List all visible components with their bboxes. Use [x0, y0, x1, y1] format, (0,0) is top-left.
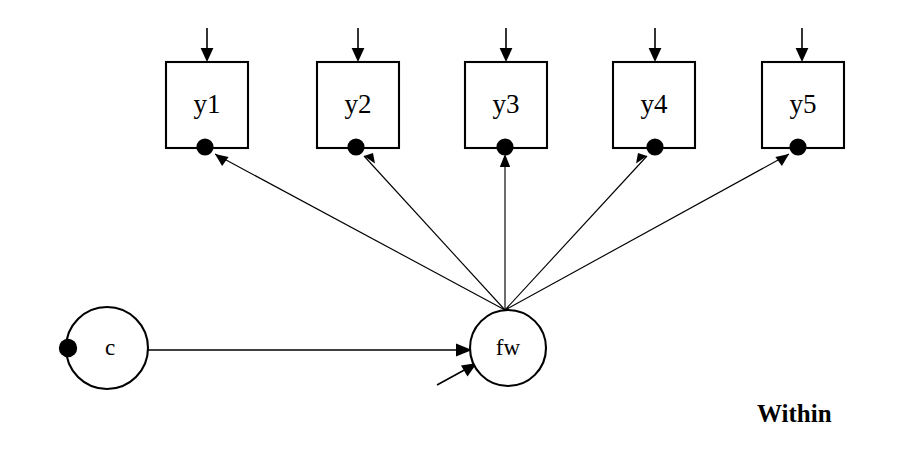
indicator-label-y3: y3 [493, 89, 520, 119]
sem-path-diagram: y1 y2 y3 y4 y5 [0, 0, 901, 463]
indicator-residual-arrows-group [201, 28, 809, 62]
group-label-within: Within [757, 400, 832, 427]
residual-dot-y3 [496, 138, 513, 155]
loading-path-fw-to-y1[interactable] [215, 154, 505, 310]
diagram-canvas: y1 y2 y3 y4 y5 [0, 0, 901, 463]
residual-dots-group [196, 138, 806, 155]
indicator-node-y4[interactable]: y4 [613, 62, 695, 148]
indicator-label-y4: y4 [641, 89, 669, 119]
residual-arrow-y2 [352, 28, 365, 62]
loading-path-fw-to-y4[interactable] [505, 153, 647, 310]
residual-arrow-y4 [649, 28, 662, 62]
loading-paths-group [215, 153, 789, 310]
latent-node-c[interactable]: c [59, 307, 148, 389]
indicator-label-y5: y5 [790, 89, 817, 119]
residual-arrow-y5 [796, 28, 809, 62]
indicator-node-y2[interactable]: y2 [317, 62, 399, 148]
loading-path-fw-to-y2[interactable] [364, 153, 505, 310]
indicator-node-y3[interactable]: y3 [465, 62, 547, 148]
loading-path-fw-to-y5[interactable] [505, 154, 789, 310]
residual-dot-y2 [347, 138, 364, 155]
residual-dot-y5 [789, 138, 806, 155]
loading-path-fw-to-y3[interactable] [500, 154, 510, 310]
latent-label-fw: fw [496, 335, 521, 360]
residual-dot-c [59, 339, 77, 357]
residual-arrow-y1 [201, 28, 214, 62]
residual-dot-y4 [646, 138, 663, 155]
indicator-node-y1[interactable]: y1 [166, 62, 248, 148]
indicator-label-y2: y2 [345, 89, 372, 119]
residual-dot-y1 [196, 138, 213, 155]
regression-path-c-to-fw[interactable] [148, 344, 472, 357]
residual-arrow-y3 [500, 28, 513, 62]
factor-residual-arrow-fw [437, 363, 477, 385]
indicator-nodes-group: y1 y2 y3 y4 y5 [166, 62, 844, 148]
latent-node-fw[interactable]: fw [470, 310, 546, 386]
indicator-label-y1: y1 [194, 89, 221, 119]
latent-label-c: c [105, 335, 115, 360]
indicator-node-y5[interactable]: y5 [762, 62, 844, 148]
